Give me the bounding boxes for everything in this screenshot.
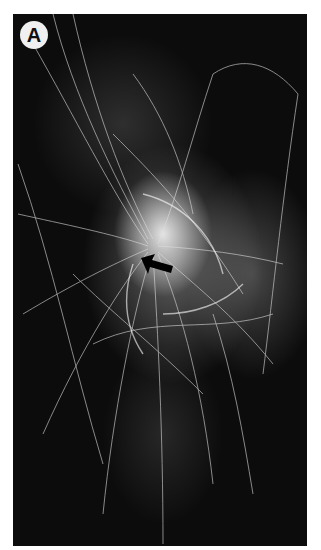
arrow-icon: [141, 254, 175, 276]
filaments: [13, 14, 307, 546]
panel-label: A: [20, 21, 48, 49]
micrograph-panel: A: [13, 14, 307, 546]
